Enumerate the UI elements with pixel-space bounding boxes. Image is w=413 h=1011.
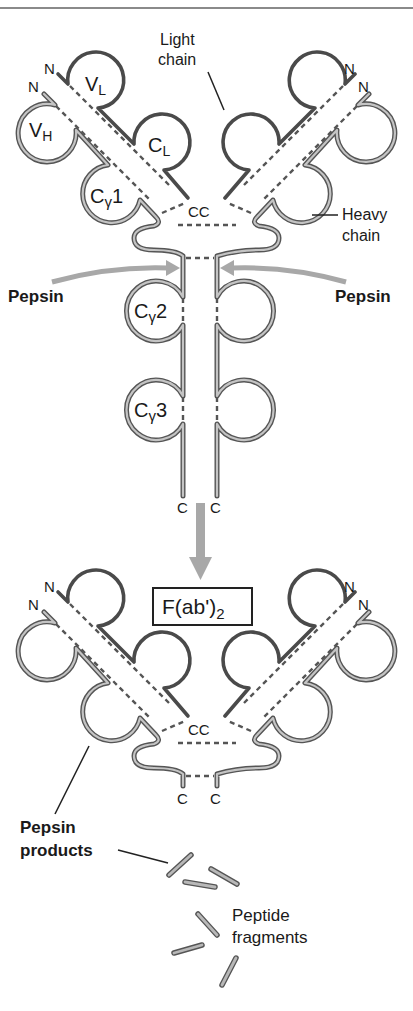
c-terminus-label: C [177,499,188,516]
svg-text:Peptide: Peptide [232,906,290,925]
svg-text:F(ab')2: F(ab')2 [162,595,225,622]
cg3-label: Cγ3 [134,399,167,424]
svg-text:Heavy: Heavy [342,206,387,223]
n-terminus-label: N [44,60,55,77]
cc-label: CC [188,203,210,220]
cg2-label: Cγ2 [134,300,167,325]
cg1-label: Cγ1 [90,185,123,210]
vh-label: VH [29,119,52,144]
svg-text:Light: Light [160,31,195,48]
diagram-canvas: VL VH CL Cγ1 Cγ2 Cγ3 N N N N CC C C Ligh… [0,0,413,1011]
pepsin-label-right: Pepsin [335,287,391,306]
n-terminus-label: N [344,60,355,77]
pepsin-products-callout: Pepsin products [20,746,168,863]
c-terminus-label: C [210,790,221,807]
svg-text:chain: chain [158,51,196,68]
n-terminus-label: N [358,78,369,95]
cc-label: CC [188,721,210,738]
n-terminus-label: N [44,578,55,595]
peptide-fragments-label: Peptide fragments [232,906,308,947]
reaction-arrow [189,503,212,580]
svg-text:products: products [20,841,93,860]
cl-label: CL [148,134,170,159]
vl-label: VL [85,73,106,98]
svg-text:Pepsin: Pepsin [20,818,76,837]
intact-antibody: VL VH CL Cγ1 Cγ2 Cγ3 N N N N CC C C Ligh… [18,31,395,516]
n-terminus-label: N [344,578,355,595]
light-chain-callout: Light chain [158,31,224,110]
pepsin-label-left: Pepsin [8,287,64,306]
svg-text:chain: chain [342,227,380,244]
n-terminus-label: N [28,596,39,613]
svg-text:fragments: fragments [232,928,308,947]
pepsin-cleavage: Pepsin Pepsin [8,260,391,306]
light-chain-left [58,52,190,198]
fab2-label-box: F(ab')2 [153,588,252,625]
n-terminus-label: N [28,78,39,95]
c-terminus-label: C [177,790,188,807]
c-terminus-label: C [210,499,221,516]
light-chain-right [223,52,355,198]
n-terminus-label: N [358,596,369,613]
